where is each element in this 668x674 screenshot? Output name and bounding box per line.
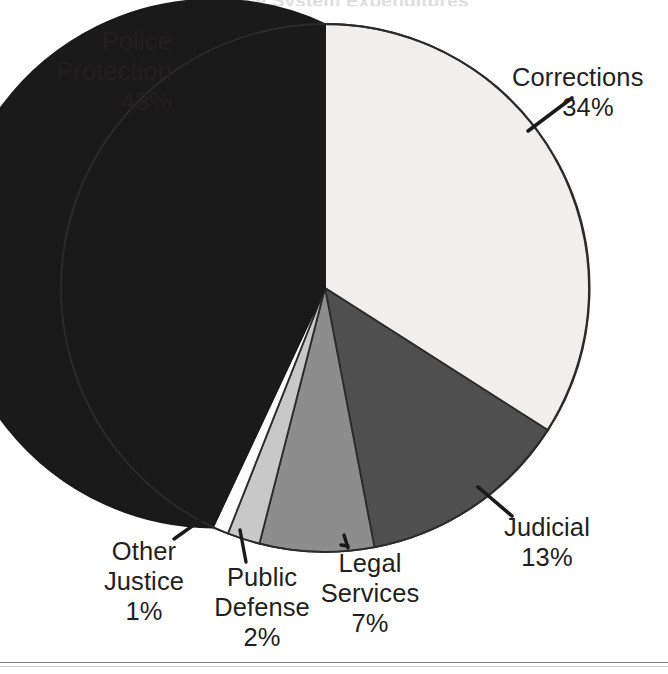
slice-label-judicial: Judicial 13%: [482, 512, 612, 572]
slice-label-corrections-line1: Corrections: [512, 62, 664, 92]
slice-label-other-justice: Other Justice 1%: [92, 536, 196, 626]
footer-rule-shadow: [0, 666, 668, 667]
slice-label-police-protection: Police Protection 43%: [6, 26, 172, 116]
slice-label-police-protection-line2: Protection: [6, 56, 172, 86]
slice-label-judicial-line1: Judicial: [482, 512, 612, 542]
slice-label-public-defense-line1: Public: [204, 562, 320, 592]
slice-label-police-protection-value: 43%: [6, 86, 172, 116]
chart-page: Justice System Expenditures Police Prote…: [0, 0, 668, 674]
footer-rule: [0, 662, 668, 663]
slice-label-corrections: Corrections 34%: [512, 62, 664, 122]
slice-label-corrections-value: 34%: [512, 92, 664, 122]
slice-label-legal-services-line1: Legal: [312, 548, 428, 578]
slice-label-public-defense-value: 2%: [204, 622, 320, 652]
slice-label-police-protection-line1: Police: [6, 26, 172, 56]
slice-label-other-justice-line2: Justice: [92, 566, 196, 596]
slice-label-public-defense-line2: Defense: [204, 592, 320, 622]
slice-label-other-justice-line1: Other: [92, 536, 196, 566]
slice-label-legal-services: Legal Services 7%: [312, 548, 428, 638]
slice-label-public-defense: Public Defense 2%: [204, 562, 320, 652]
slice-label-other-justice-value: 1%: [92, 596, 196, 626]
slice-label-legal-services-line2: Services: [312, 578, 428, 608]
slice-label-judicial-value: 13%: [482, 542, 612, 572]
slice-label-legal-services-value: 7%: [312, 608, 428, 638]
